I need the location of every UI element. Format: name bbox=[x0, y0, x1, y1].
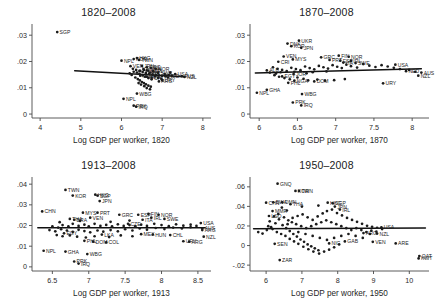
data-point bbox=[183, 76, 186, 79]
data-point bbox=[119, 234, 122, 237]
data-point bbox=[382, 82, 385, 85]
data-point bbox=[146, 225, 149, 228]
data-point bbox=[55, 234, 58, 237]
data-point bbox=[172, 226, 175, 229]
data-point bbox=[290, 45, 293, 48]
data-point bbox=[68, 218, 71, 221]
plot-area-1820: 0.01.02.0345678Log GDP per worker, 1820S… bbox=[0, 0, 217, 153]
y-tick-label: .01 bbox=[17, 242, 27, 251]
data-point bbox=[277, 213, 280, 216]
data-point bbox=[118, 213, 121, 216]
data-point bbox=[301, 213, 304, 216]
data-point bbox=[361, 237, 364, 240]
data-point bbox=[304, 65, 307, 68]
data-point bbox=[417, 74, 420, 77]
data-point bbox=[84, 236, 87, 239]
data-point bbox=[273, 215, 276, 218]
x-tick-label: 9 bbox=[372, 276, 376, 285]
x-tick-label: 6 bbox=[257, 123, 261, 132]
data-point bbox=[105, 224, 108, 227]
data-point bbox=[109, 229, 112, 232]
data-point bbox=[265, 201, 268, 204]
data-point bbox=[330, 221, 333, 224]
data-point bbox=[326, 201, 329, 204]
data-point bbox=[333, 246, 336, 249]
panel-1950: 1950–2008 -.020.02.04.06678910Log GDP pe… bbox=[218, 153, 435, 306]
data-point bbox=[56, 31, 59, 34]
plot-area-1870: 0.01.02.0366.577.58Log GDP per worker, 1… bbox=[218, 0, 435, 153]
data-point bbox=[291, 221, 294, 224]
data-point bbox=[408, 69, 411, 72]
data-point bbox=[132, 67, 135, 70]
data-point bbox=[136, 71, 139, 74]
data-point bbox=[140, 65, 143, 68]
data-point bbox=[135, 69, 138, 72]
data-point bbox=[139, 70, 142, 73]
data-point bbox=[163, 218, 166, 221]
data-point bbox=[300, 46, 303, 49]
point-label: NZL bbox=[187, 74, 197, 80]
data-point bbox=[61, 224, 64, 227]
data-point bbox=[63, 232, 66, 235]
data-point bbox=[180, 75, 183, 78]
data-point bbox=[320, 56, 323, 59]
point-label: KOR bbox=[75, 193, 86, 199]
data-point bbox=[278, 259, 281, 262]
point-label: WBG bbox=[304, 91, 316, 97]
data-point bbox=[335, 223, 338, 226]
data-point bbox=[117, 230, 120, 233]
data-point bbox=[313, 80, 316, 83]
data-point bbox=[394, 242, 397, 245]
y-tick-label: .02 bbox=[235, 222, 245, 231]
data-point bbox=[265, 69, 268, 72]
point-label: ARE bbox=[398, 240, 409, 246]
plot-area-1950: -.020.02.04.06678910Log GDP per worker, … bbox=[218, 153, 435, 306]
data-point bbox=[83, 230, 86, 233]
x-tick-label: 6 bbox=[264, 276, 268, 285]
regression-fit-line bbox=[254, 228, 426, 229]
point-label: GRC bbox=[122, 212, 134, 218]
data-point bbox=[77, 262, 80, 265]
data-point bbox=[132, 70, 135, 73]
data-point bbox=[154, 75, 157, 78]
point-label: BRA bbox=[77, 217, 88, 223]
data-point bbox=[136, 92, 139, 95]
point-label: GHA bbox=[68, 249, 80, 255]
data-point bbox=[93, 223, 96, 226]
data-point bbox=[276, 182, 279, 185]
data-point bbox=[66, 229, 69, 232]
x-tick-label: 6.5 bbox=[47, 276, 57, 285]
data-point bbox=[189, 226, 192, 229]
data-point bbox=[257, 231, 260, 234]
data-point bbox=[285, 227, 288, 230]
x-tick-label: 7 bbox=[87, 276, 91, 285]
data-point bbox=[369, 233, 372, 236]
data-point bbox=[163, 228, 166, 231]
data-point bbox=[42, 249, 45, 252]
data-point bbox=[414, 70, 417, 73]
data-point bbox=[147, 77, 150, 80]
data-point bbox=[145, 87, 148, 90]
data-point bbox=[301, 205, 304, 208]
data-point bbox=[325, 219, 328, 222]
data-point bbox=[394, 63, 397, 66]
data-point bbox=[336, 212, 339, 215]
data-point bbox=[339, 59, 342, 62]
data-point bbox=[189, 223, 192, 226]
data-point bbox=[328, 242, 331, 245]
x-tick-label: 5 bbox=[79, 123, 83, 132]
data-point bbox=[128, 224, 131, 227]
data-point bbox=[169, 71, 172, 74]
point-label: CHN bbox=[45, 208, 56, 214]
data-point bbox=[294, 190, 297, 193]
data-point bbox=[154, 227, 157, 230]
data-point bbox=[143, 85, 146, 88]
point-label: COL bbox=[109, 239, 120, 245]
data-point bbox=[141, 71, 144, 74]
data-point bbox=[344, 78, 347, 81]
x-tick-label: 8 bbox=[336, 276, 340, 285]
data-point bbox=[134, 76, 137, 79]
point-label: ITA bbox=[145, 217, 153, 223]
data-point bbox=[48, 229, 51, 232]
point-label: IRQ bbox=[81, 261, 90, 267]
